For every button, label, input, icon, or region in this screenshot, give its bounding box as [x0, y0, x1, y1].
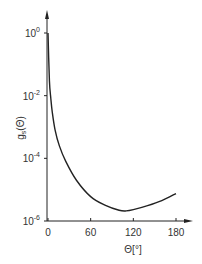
chart-svg: 10010-210-410-6 060120180 gs(Θ) Θ[°] — [0, 0, 202, 264]
y-label-arg: (Θ) — [15, 116, 26, 130]
x-axis-label: Θ[°] — [124, 244, 142, 255]
svg-text:gs(Θ): gs(Θ) — [15, 116, 27, 140]
y-axis-arrow-icon — [45, 10, 49, 19]
x-tick-label: 0 — [45, 227, 51, 238]
data-curve — [48, 33, 176, 211]
x-tick-label: 180 — [168, 227, 185, 238]
x-tick-label: 60 — [85, 227, 97, 238]
y-tick-label: 10-6 — [23, 214, 40, 227]
y-tick-label: 100 — [25, 26, 40, 39]
y-axis-label: gs(Θ) — [15, 116, 27, 140]
x-tick-label: 120 — [125, 227, 142, 238]
y-tick-label: 10-2 — [23, 89, 40, 102]
y-ticks: 10010-210-410-6 — [23, 26, 47, 227]
x-axis-arrow-icon — [184, 219, 193, 223]
y-tick-label: 10-4 — [23, 151, 40, 164]
